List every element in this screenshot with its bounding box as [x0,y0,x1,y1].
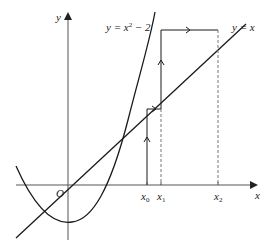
diagram-canvas: y x O y = x2 − 2 y = x x0 x1 x2 [0,0,269,251]
cobweb-path [147,30,218,185]
y-axis-label: y [56,12,61,23]
x0-label: x0 [141,191,149,204]
x-axis-label: x [255,190,260,201]
parabola-label: y = x2 − 2 [106,22,151,33]
origin-label: O [56,188,64,199]
line-label: y = x [232,22,255,33]
diagram-svg [0,0,269,251]
parabola-label-base: y = x [106,21,129,33]
x1-label: x1 [157,191,165,204]
x2-label: x2 [214,191,222,204]
parabola-curve-fill [16,12,155,222]
line-y-equals-x [16,24,246,238]
parabola-label-tail: − 2 [132,21,150,33]
